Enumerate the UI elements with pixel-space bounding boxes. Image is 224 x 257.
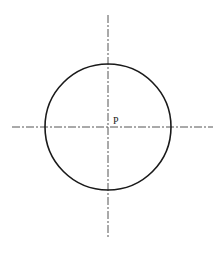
diagram-canvas: P bbox=[0, 0, 224, 257]
circle-diagram: P bbox=[0, 0, 224, 257]
point-label-p: P bbox=[113, 115, 119, 126]
